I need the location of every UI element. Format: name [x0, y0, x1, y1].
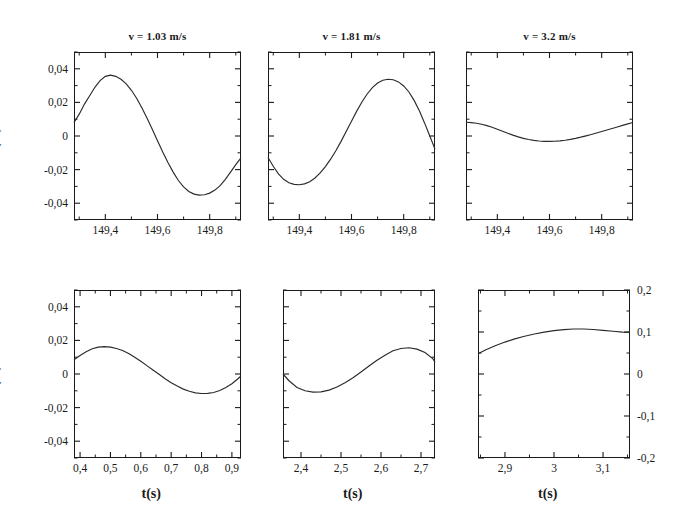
- y-tick-label: 0,2: [637, 284, 683, 296]
- x-tick-label: 0,6: [134, 462, 148, 474]
- panel-title-top-middle: v = 1.81 m/s: [268, 30, 435, 42]
- y-tick-label: -0,04: [22, 197, 68, 209]
- plot-frame-bottom-left: [74, 290, 241, 458]
- y-tick-label: -0,02: [22, 164, 68, 176]
- y-axis-label-bottom-left: X (m): [0, 365, 2, 400]
- plot-frame-bottom-right: [478, 290, 630, 458]
- x-tick-label: 149,4: [286, 224, 312, 236]
- x-tick-label: 2,5: [334, 462, 348, 474]
- x-tick-label: 149,4: [484, 224, 510, 236]
- x-tick-label: 149,6: [145, 224, 171, 236]
- x-tick-label: 149,6: [339, 224, 365, 236]
- x-tick-label: 149,8: [197, 224, 223, 236]
- x-tick-label: 2,7: [414, 462, 428, 474]
- x-tick-label: 2,6: [374, 462, 388, 474]
- x-tick-label: 2,9: [498, 462, 512, 474]
- y-tick-label: 0,02: [22, 96, 68, 108]
- x-tick-label: 0,9: [225, 462, 239, 474]
- y-tick-label: 0: [22, 130, 68, 142]
- x-axis-label-bottom-right: t(s): [538, 486, 557, 502]
- y-tick-label: -0,1: [637, 410, 683, 422]
- y-tick-label: -0,02: [22, 402, 68, 414]
- y-tick-label: 0,02: [22, 334, 68, 346]
- y-tick-label: 0,04: [22, 301, 68, 313]
- y-tick-label: 0,1: [637, 326, 683, 338]
- plot-frame-top-middle: [268, 52, 435, 220]
- x-axis-label-bottom-left: t(s): [142, 486, 161, 502]
- x-tick-label: 2,4: [294, 462, 308, 474]
- y-tick-label: 0,04: [22, 63, 68, 75]
- plot-frame-top-left: [74, 52, 241, 220]
- x-tick-label: 149,8: [391, 224, 417, 236]
- y-axis-label-top-left: X (m): [0, 127, 2, 162]
- y-tick-label: -0,2: [637, 452, 683, 464]
- x-tick-label: 3: [551, 462, 557, 474]
- x-tick-label: 0,7: [164, 462, 178, 474]
- y-tick-label: 0: [22, 368, 68, 380]
- panel-title-top-right: v = 3.2 m/s: [466, 30, 633, 42]
- x-tick-label: 149,6: [537, 224, 563, 236]
- x-tick-label: 0,8: [194, 462, 208, 474]
- x-axis-label-bottom-middle: t(s): [343, 486, 362, 502]
- x-tick-label: 3,1: [596, 462, 610, 474]
- y-tick-label: 0: [637, 368, 683, 380]
- x-tick-label: 0,4: [73, 462, 87, 474]
- x-tick-label: 149,4: [92, 224, 118, 236]
- figure-root: v = 1.03 m/s-0,04-0,0200,020,04149,4149,…: [0, 0, 694, 531]
- x-tick-label: 0,5: [103, 462, 117, 474]
- x-tick-label: 149,8: [589, 224, 615, 236]
- plot-frame-bottom-middle: [283, 290, 435, 458]
- panel-title-top-left: v = 1.03 m/s: [74, 30, 241, 42]
- plot-frame-top-right: [466, 52, 633, 220]
- y-tick-label: -0,04: [22, 435, 68, 447]
